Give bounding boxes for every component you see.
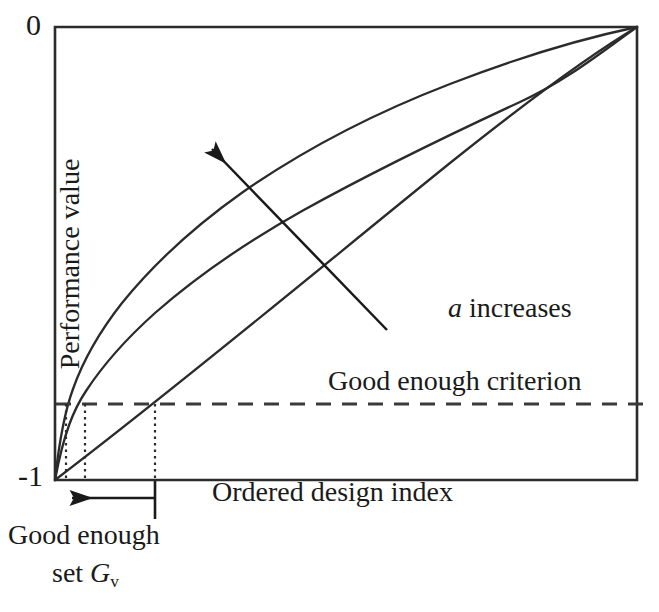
figure-container: 0 -1 Performance value Ordered design in… [0,0,659,612]
x-axis-label: Ordered design index [212,478,453,506]
y-axis-label: Performance value [56,134,84,394]
good-enough-set-label-line2: set Gv [52,559,119,590]
good-enough-set-symbol: G [90,557,110,588]
y-axis-tick-top: 0 [26,10,41,40]
a-increases-variable: a [448,292,462,323]
criterion-label: Good enough criterion [328,367,582,395]
good-enough-set-label-line1: Good enough [8,521,160,549]
good-enough-set-prefix: set [52,557,90,588]
a-increases-arrow [212,149,387,330]
good-enough-set-subscript: v [110,572,119,591]
curve-series-3 [55,27,637,480]
a-increases-label: a increases [448,294,572,322]
y-axis-tick-bottom: -1 [18,461,43,491]
a-increases-text: increases [462,292,572,323]
